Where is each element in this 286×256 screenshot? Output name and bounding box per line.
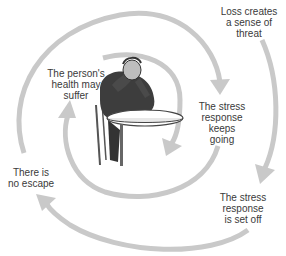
step-health-may-suffer: The person's health may suffer xyxy=(44,68,108,101)
step-stress-response-keeps-going: The stress response keeps going xyxy=(190,101,254,145)
stress-spiral-diagram: Loss creates a sense of threat The stres… xyxy=(0,0,286,256)
step-loss-creates-threat: Loss creates a sense of threat xyxy=(214,6,284,39)
step-stress-response-set-off: The stress response is set off xyxy=(210,192,276,225)
step-no-escape: There is no escape xyxy=(2,167,60,189)
arrow-loss-to-setoff xyxy=(255,40,276,184)
